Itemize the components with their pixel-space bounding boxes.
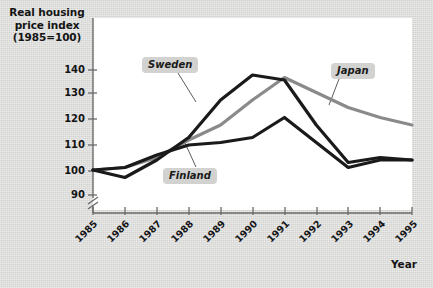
- chart-canvas: [0, 0, 433, 288]
- axis-lines: [93, 18, 412, 213]
- series-line-japan: [93, 78, 412, 171]
- series-line-finland: [93, 118, 412, 171]
- chart-page: Real housing price index (1985=100) 140 …: [0, 0, 433, 288]
- x-tick-marks: [93, 207, 412, 215]
- leader-line-sweden: [178, 73, 196, 102]
